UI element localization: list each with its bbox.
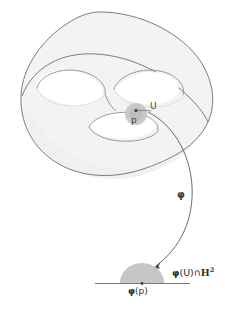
point-p-marker xyxy=(135,109,138,112)
point-p-label: p xyxy=(131,116,137,125)
image-point-label: φ(p) xyxy=(128,287,148,296)
image-region-label-halfplane: H xyxy=(201,267,210,278)
genus-2-surface-group xyxy=(21,12,213,179)
image-point-label-phi: φ xyxy=(128,286,135,296)
image-point-phi-p-marker xyxy=(141,282,144,285)
image-region-label-exponent: 2 xyxy=(210,266,215,274)
phi-map-label: φ xyxy=(177,190,185,200)
figure-canvas: U p φ φ(U)∩H2 φ(p) xyxy=(0,0,225,309)
manifold-diagram xyxy=(0,0,225,309)
image-point-label-arg: (p) xyxy=(135,286,148,296)
image-region-label: φ(U)∩H2 xyxy=(172,267,214,278)
neighborhood-U-label: U xyxy=(150,102,157,111)
image-region-label-cap: ∩ xyxy=(194,267,201,278)
image-region-label-open: (U) xyxy=(179,267,193,278)
